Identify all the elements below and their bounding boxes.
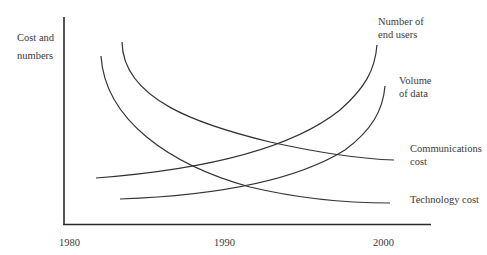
curve-technology-cost — [101, 56, 390, 203]
label-volume-line2: of data — [399, 86, 428, 102]
curve-volume-of-data — [120, 86, 385, 199]
curve-communications-cost — [122, 42, 394, 160]
label-end-users-line2: end users — [378, 27, 417, 43]
x-tick-1980: 1980 — [59, 235, 80, 251]
label-comms-line2: cost — [410, 154, 427, 170]
curve-end-users — [96, 45, 377, 178]
y-axis-label-line2: numbers — [17, 48, 53, 64]
x-tick-2000: 2000 — [373, 235, 394, 251]
y-axis-label-line1: Cost and — [17, 30, 54, 46]
label-technology-cost: Technology cost — [410, 192, 479, 208]
x-tick-1990: 1990 — [214, 235, 235, 251]
